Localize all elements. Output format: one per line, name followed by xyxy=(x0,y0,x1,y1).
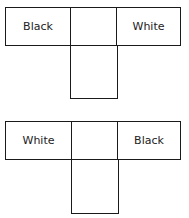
top-left-cell: Black xyxy=(5,7,71,46)
bottom-left-cell: White xyxy=(5,121,72,160)
top-right-label: White xyxy=(133,20,165,33)
top-middle-cell xyxy=(70,7,118,46)
bottom-middle-cell xyxy=(71,121,119,160)
top-right-cell: White xyxy=(116,7,181,46)
top-stem-cell xyxy=(70,45,118,99)
bottom-right-label: Black xyxy=(134,134,164,147)
bottom-left-label: White xyxy=(23,134,55,147)
bottom-right-cell: Black xyxy=(117,121,181,160)
bottom-stem-cell xyxy=(71,159,119,214)
top-left-label: Black xyxy=(23,20,53,33)
